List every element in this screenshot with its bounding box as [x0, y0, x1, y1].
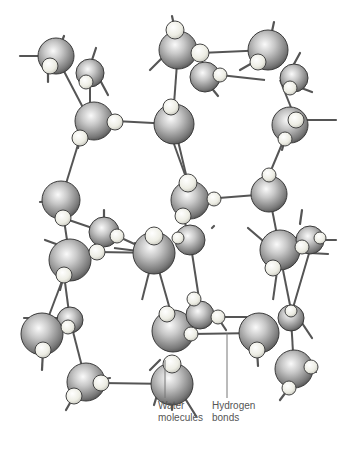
hydrogen-atom — [159, 306, 175, 322]
hydrogen-atom — [314, 232, 326, 244]
hydrogen-atom — [207, 192, 221, 206]
water-lattice-figure: Water molecules Hydrogen bonds — [0, 0, 354, 450]
hydrogen-atom — [66, 388, 82, 404]
hydrogen-atom — [262, 168, 276, 182]
hydrogen-atom — [250, 54, 266, 70]
hydrogen-atom — [35, 342, 51, 358]
hydrogen-atom — [187, 292, 201, 306]
hydrogen-atom — [163, 99, 179, 115]
hydrogen-atom — [61, 320, 75, 334]
hydrogen-atom — [283, 81, 297, 95]
hydrogen-atom — [163, 355, 181, 373]
label-line-2: molecules — [158, 412, 203, 424]
hydrogen-atom — [213, 68, 227, 82]
hydrogen-atom — [93, 375, 109, 391]
hydrogen-atom — [89, 244, 105, 260]
hydrogen-atom — [191, 44, 209, 62]
hydrogen-atom — [184, 327, 198, 341]
bond-stub — [248, 228, 262, 240]
bond-stub — [300, 210, 302, 224]
hydrogen-atom — [110, 229, 124, 243]
hydrogen-atom — [304, 360, 318, 374]
hydrogen-atom — [285, 305, 297, 317]
hydrogen-atom — [288, 112, 304, 128]
hydrogen-atom — [265, 260, 281, 276]
bond-stub — [150, 58, 162, 70]
hydrogen-atom — [55, 210, 71, 226]
bond-stub — [100, 80, 108, 95]
hydrogen-atom — [295, 240, 309, 254]
molecule-lattice-diagram — [0, 0, 354, 450]
label-line-2: bonds — [212, 412, 255, 424]
hydrogen-atom — [56, 267, 72, 283]
hydrogen-atom — [145, 227, 163, 245]
bond-stub — [294, 53, 300, 64]
bond-stub — [92, 48, 96, 60]
hydrogen-atom — [42, 58, 58, 74]
label-line-1: Water — [158, 400, 203, 412]
hydrogen-atom — [278, 132, 292, 146]
hydrogen-atom — [282, 381, 296, 395]
hydrogen-atom — [166, 21, 184, 39]
hydrogen-atom — [72, 130, 88, 146]
hydrogen-bonds-label: Hydrogen bonds — [212, 400, 255, 424]
hydrogen-atom — [175, 208, 191, 224]
hydrogen-atom — [172, 232, 184, 244]
hydrogen-atom — [179, 174, 197, 192]
water-molecules-label: Water molecules — [158, 400, 203, 424]
hydrogen-atom — [107, 114, 123, 130]
label-line-1: Hydrogen — [212, 400, 255, 412]
hydrogen-atom — [79, 75, 93, 89]
bond-stub — [45, 240, 56, 244]
hydrogen-atom — [249, 342, 265, 358]
hydrogen-atom — [211, 310, 225, 324]
bond-stub — [212, 226, 214, 228]
